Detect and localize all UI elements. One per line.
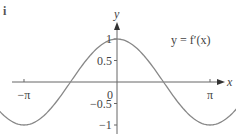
y-axis-label: y bbox=[114, 8, 119, 20]
x-axis-arrow-icon bbox=[217, 79, 225, 85]
function-label: y = f′(x) bbox=[171, 34, 210, 46]
y-tick-label: −0.5 bbox=[90, 98, 112, 110]
function-label-text: y = f′(x) bbox=[171, 33, 210, 47]
x-tick-label: π bbox=[207, 89, 213, 101]
y-tick-label: 1 bbox=[106, 33, 112, 45]
y-axis-arrow-icon bbox=[114, 22, 120, 30]
x-tick-label: −π bbox=[17, 89, 30, 101]
x-axis-label: x bbox=[227, 76, 232, 88]
x-axis bbox=[12, 79, 225, 85]
y-tick-label: 0.5 bbox=[97, 55, 112, 67]
y-tick-label: −1 bbox=[99, 119, 112, 131]
